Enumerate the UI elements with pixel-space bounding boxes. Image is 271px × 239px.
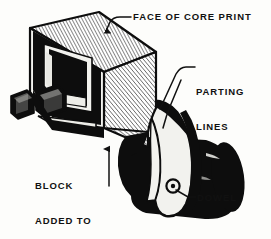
label-block-line2: ADDED TO xyxy=(35,215,95,227)
label-block-line1: BLOCK xyxy=(35,180,95,192)
label-block-added-to-pattern: BLOCK ADDED TO PATTERN— xyxy=(35,157,95,239)
label-parting-lines: PARTING LINES xyxy=(196,63,244,155)
label-parting-lines-line2: LINES xyxy=(196,121,244,133)
label-face-of-core-print: FACE OF CORE PRINT xyxy=(133,11,252,23)
label-dowel: DOWEL xyxy=(197,192,237,204)
illustration-root: FACE OF CORE PRINT PARTING LINES BLOCK A… xyxy=(0,0,271,239)
label-parting-lines-line1: PARTING xyxy=(196,86,244,98)
left-tab-outer xyxy=(11,90,34,119)
